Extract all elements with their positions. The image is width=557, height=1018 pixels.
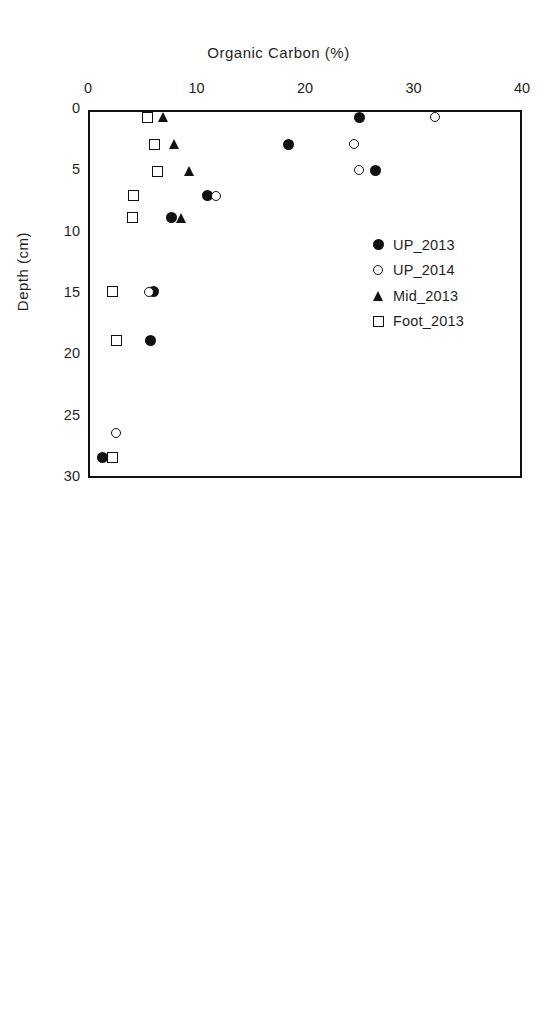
x-tick-label: 40	[499, 80, 545, 96]
y-tick-label: 10	[40, 223, 80, 239]
y-axis-title-top: Depth (cm)	[14, 232, 31, 311]
data-point-mid_2013	[176, 213, 186, 223]
x-tick-label: 0	[65, 80, 111, 96]
x-tick-label: 10	[174, 80, 220, 96]
x-tick-label: 30	[391, 80, 437, 96]
y-tick-label: 0	[40, 100, 80, 116]
y-tick-label: 25	[40, 407, 80, 423]
legend-label: UP_2013	[393, 237, 455, 253]
data-point-foot_2013	[107, 286, 118, 297]
data-point-up_2014	[211, 191, 221, 201]
data-point-up_2014	[144, 287, 154, 297]
data-point-foot_2013	[127, 212, 138, 223]
triangle-filled-icon	[373, 291, 383, 301]
legend-label: UP_2014	[393, 262, 455, 278]
data-point-foot_2013	[107, 452, 118, 463]
data-point-mid_2013	[169, 139, 179, 149]
data-point-up_2013	[283, 139, 294, 150]
data-point-up_2013	[370, 165, 381, 176]
square-open-icon	[373, 316, 384, 327]
y-tick-label: 20	[40, 345, 80, 361]
data-point-foot_2013	[149, 139, 160, 150]
data-point-up_2013	[97, 452, 108, 463]
y-tick-label: 5	[40, 161, 80, 177]
chart-panel-cn-ratio: CN ratio (%) 0102030 051015202530 Depth …	[0, 500, 557, 1018]
legend-label: Foot_2013	[393, 313, 464, 329]
data-point-mid_2013	[184, 166, 194, 176]
data-point-foot_2013	[152, 166, 163, 177]
data-point-up_2013	[354, 112, 365, 123]
data-point-foot_2013	[142, 112, 153, 123]
y-tick-label: 15	[40, 284, 80, 300]
x-tick-label: 20	[282, 80, 328, 96]
circle-filled-icon	[373, 239, 384, 250]
data-point-mid_2013	[158, 112, 168, 122]
data-point-foot_2013	[111, 335, 122, 346]
chart-panel-organic-carbon: Organic Carbon (%) 010203040 05101520253…	[0, 0, 557, 500]
data-point-foot_2013	[128, 190, 139, 201]
chart-title-top: Organic Carbon (%)	[0, 44, 557, 61]
legend-label: Mid_2013	[393, 288, 458, 304]
y-tick-label: 30	[40, 468, 80, 484]
data-point-up_2014	[111, 428, 121, 438]
